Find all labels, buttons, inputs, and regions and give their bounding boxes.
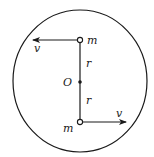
center-label: O — [63, 76, 72, 89]
radius-label-top: r — [86, 57, 92, 70]
mass-bottom-label: m — [63, 122, 73, 135]
mass-top-icon — [77, 37, 82, 42]
radius-label-bottom: r — [86, 94, 92, 107]
mass-top-label: m — [87, 34, 97, 47]
mass-bottom-icon — [77, 119, 82, 124]
rotating-masses-diagram: m v r O r v m — [0, 0, 154, 157]
velocity-bottom-label: v — [116, 107, 123, 120]
center-point-icon — [78, 80, 82, 84]
velocity-top-label: v — [34, 42, 41, 55]
